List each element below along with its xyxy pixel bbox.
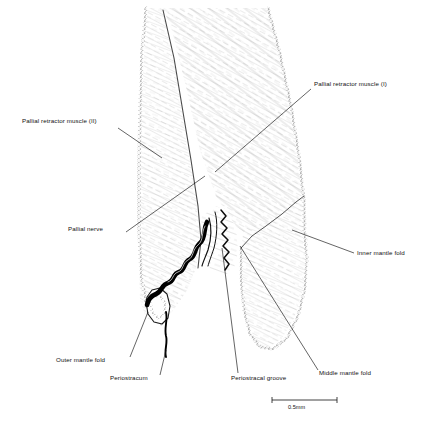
scale-bar-label: 0.5mm (288, 404, 305, 410)
label-middle-mantle-fold: Middle mantle fold (319, 370, 371, 376)
label-periostracum: Periostracum (110, 375, 148, 381)
label-pallial-retractor-muscle-1: Pallial retractor muscle (I) (314, 81, 387, 87)
label-periostracal-groove: Periostracal groove (231, 375, 286, 381)
label-outer-mantle-fold: Outer mantle fold (56, 357, 105, 363)
anatomical-figure: Pallial retractor muscle (II) Pallial ne… (0, 0, 436, 425)
label-inner-mantle-fold: Inner mantle fold (357, 250, 405, 256)
label-pallial-retractor-muscle-2: Pallial retractor muscle (II) (22, 118, 97, 124)
label-pallial-nerve: Pallial nerve (68, 226, 103, 232)
